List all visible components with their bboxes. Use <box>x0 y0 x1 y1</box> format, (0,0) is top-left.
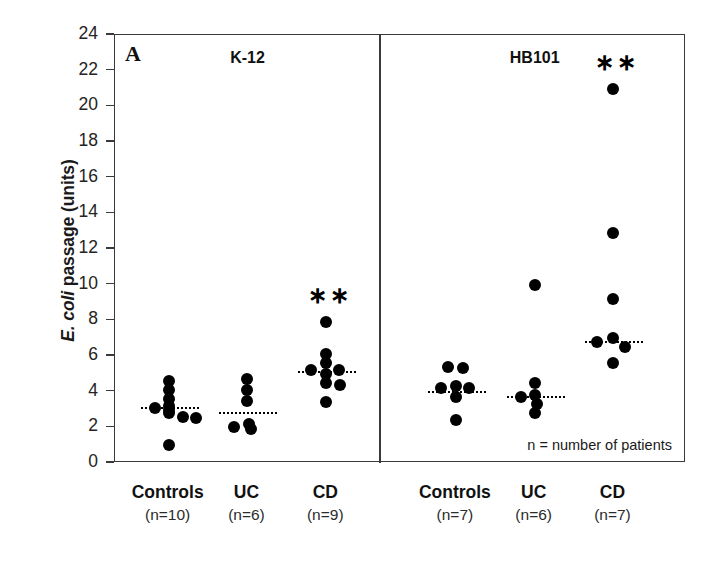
y-tick-mark <box>106 33 114 35</box>
x-group-count: (n=7) <box>594 506 631 524</box>
x-group-name: UC <box>515 482 552 503</box>
data-point <box>450 414 462 426</box>
y-tick-mark <box>106 461 114 463</box>
data-point <box>163 439 175 451</box>
y-tick-label: 20 <box>46 94 98 115</box>
panel-label-a: A <box>125 41 141 67</box>
x-group-k-12-cd: CD(n=9) <box>307 482 344 524</box>
data-point <box>607 83 619 95</box>
y-tick-mark <box>106 247 114 249</box>
data-point <box>450 391 462 403</box>
x-group-count: (n=10) <box>132 506 204 524</box>
data-point <box>320 396 332 408</box>
y-tick-label: 4 <box>46 380 98 401</box>
y-tick-mark <box>106 140 114 142</box>
y-tick-label: 18 <box>46 130 98 151</box>
panel-divider <box>379 35 381 463</box>
y-tick-label: 12 <box>46 237 98 258</box>
plot-area: A K-12∗∗HB101∗∗ n = number of patients <box>114 34 685 462</box>
footnote-text: n = number of patients <box>527 437 672 453</box>
data-point <box>442 361 454 373</box>
data-point <box>529 279 541 291</box>
x-group-count: (n=9) <box>307 506 344 524</box>
data-point <box>245 423 257 435</box>
data-point <box>607 357 619 369</box>
data-point <box>163 407 175 419</box>
y-tick-mark <box>106 354 114 356</box>
panel-title-k-12: K-12 <box>230 49 265 67</box>
x-group-count: (n=6) <box>228 506 265 524</box>
y-tick-label: 22 <box>46 59 98 80</box>
x-group-k-12-controls: Controls(n=10) <box>132 482 204 524</box>
data-point <box>607 293 619 305</box>
y-tick-label: 0 <box>46 451 98 472</box>
median-line <box>585 341 643 343</box>
y-tick-label: 2 <box>46 415 98 436</box>
data-point <box>228 421 240 433</box>
median-line <box>219 412 277 414</box>
data-point <box>320 377 332 389</box>
x-group-name: Controls <box>419 482 491 503</box>
x-group-name: UC <box>228 482 265 503</box>
y-tick-label: 10 <box>46 273 98 294</box>
data-point <box>529 377 541 389</box>
x-group-hb101-controls: Controls(n=7) <box>419 482 491 524</box>
x-group-hb101-uc: UC(n=6) <box>515 482 552 524</box>
data-point <box>241 395 253 407</box>
y-tick-mark <box>106 283 114 285</box>
median-line <box>141 407 199 409</box>
significance-marker: ∗∗ <box>308 284 352 307</box>
y-tick-label: 16 <box>46 166 98 187</box>
data-point <box>607 227 619 239</box>
figure-panel-a: E. coli passage (units) 0246810121416182… <box>0 0 720 568</box>
data-point <box>619 341 631 353</box>
median-line <box>428 391 486 393</box>
y-tick-label: 8 <box>46 308 98 329</box>
x-group-count: (n=6) <box>515 506 552 524</box>
y-tick-mark <box>106 319 114 321</box>
y-tick-mark <box>106 176 114 178</box>
data-point <box>457 362 469 374</box>
significance-marker: ∗∗ <box>595 51 639 74</box>
x-axis-group-labels: Controls(n=10)UC(n=6)CD(n=9)Controls(n=7… <box>114 466 685 546</box>
y-tick-label: 14 <box>46 201 98 222</box>
x-group-k-12-uc: UC(n=6) <box>228 482 265 524</box>
data-point <box>529 407 541 419</box>
x-group-name: CD <box>307 482 344 503</box>
data-point <box>190 412 202 424</box>
x-group-name: Controls <box>132 482 204 503</box>
y-tick-label: 24 <box>46 23 98 44</box>
y-tick-label: 6 <box>46 344 98 365</box>
y-tick-mark <box>106 105 114 107</box>
data-point <box>334 379 346 391</box>
x-group-hb101-cd: CD(n=7) <box>594 482 631 524</box>
median-line <box>507 396 565 398</box>
x-group-name: CD <box>594 482 631 503</box>
y-axis-ticks: 024681012141618202224 <box>0 34 114 462</box>
y-tick-mark <box>106 426 114 428</box>
data-point <box>177 411 189 423</box>
median-line <box>298 371 356 373</box>
y-tick-mark <box>106 212 114 214</box>
y-tick-mark <box>106 69 114 71</box>
panel-title-hb101: HB101 <box>510 49 560 67</box>
data-point <box>320 316 332 328</box>
y-tick-mark <box>106 390 114 392</box>
x-group-count: (n=7) <box>419 506 491 524</box>
